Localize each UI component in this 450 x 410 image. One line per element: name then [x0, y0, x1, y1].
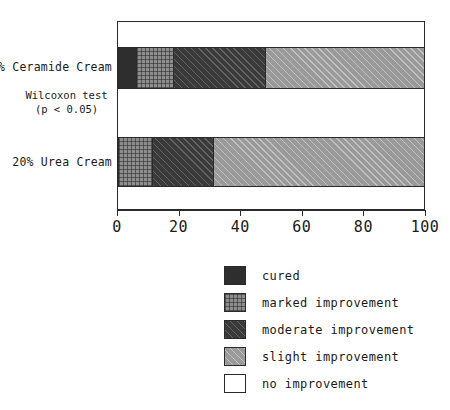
bar-segment-marked-improvement [136, 48, 173, 88]
legend-item-label: moderate improvement [262, 323, 415, 337]
bar-segment-moderate-improvement [173, 48, 265, 88]
x-axis-line [117, 210, 425, 211]
legend-item: marked improvement [224, 289, 415, 316]
x-axis-tick [425, 210, 426, 216]
statistical-annotation: Wilcoxon test (p < 0.05) [14, 88, 119, 116]
legend-swatch-icon [224, 347, 246, 366]
annotation-line-1: Wilcoxon test [14, 88, 119, 102]
legend-item: slight improvement [224, 343, 415, 370]
x-axis-tick-label: 40 [231, 218, 250, 236]
legend-item-label: cured [262, 269, 300, 283]
x-axis-tick-label: 0 [112, 218, 122, 236]
chart-legend: curedmarked improvementmoderate improvem… [224, 262, 415, 397]
bar-segment-cured [118, 48, 136, 88]
x-axis-tick [117, 210, 118, 216]
legend-swatch-icon [224, 266, 246, 285]
category-label-urea-cream: 20% Urea Cream [12, 155, 112, 169]
bar-segment-slight-improvement [265, 48, 424, 88]
legend-item: moderate improvement [224, 316, 415, 343]
plot-area [117, 21, 425, 210]
stacked-bar-chart: 020406080100 8% Ceramide Cream 20% Urea … [0, 0, 450, 410]
x-axis-tick-label: 60 [292, 218, 311, 236]
legend-item: cured [224, 262, 415, 289]
legend-item-label: marked improvement [262, 296, 399, 310]
x-axis-tick-label: 100 [411, 218, 440, 236]
legend-item: no improvement [224, 370, 415, 397]
bar-segment-marked-improvement [118, 138, 152, 186]
legend-swatch-icon [224, 374, 246, 393]
bar-ceramide-cream [118, 47, 424, 89]
x-axis-tick-label: 80 [354, 218, 373, 236]
bar-urea-cream [118, 137, 424, 187]
x-axis-tick [179, 210, 180, 216]
x-axis-tick-label: 20 [169, 218, 188, 236]
x-axis-tick [240, 210, 241, 216]
legend-item-label: slight improvement [262, 350, 399, 364]
category-label-ceramide-cream: 8% Ceramide Cream [0, 60, 112, 74]
legend-swatch-icon [224, 320, 246, 339]
bar-segment-moderate-improvement [152, 138, 213, 186]
legend-item-label: no improvement [262, 377, 369, 391]
x-axis-tick [363, 210, 364, 216]
bar-segment-slight-improvement [213, 138, 424, 186]
annotation-line-2: (p < 0.05) [14, 102, 119, 116]
x-axis-tick [302, 210, 303, 216]
legend-swatch-icon [224, 293, 246, 312]
